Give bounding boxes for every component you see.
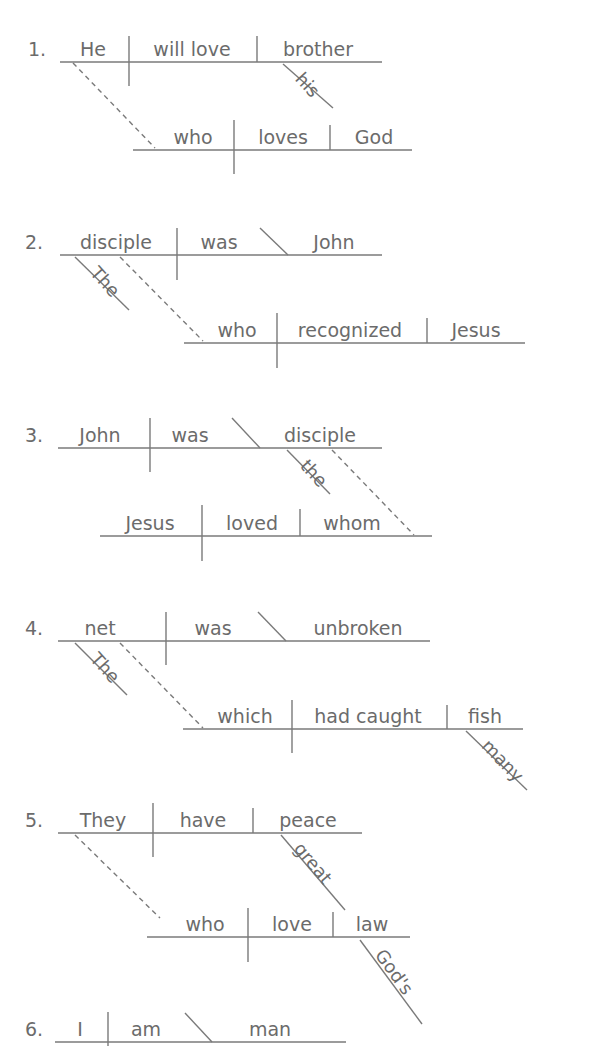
object-word: brother	[283, 38, 353, 60]
clause-object-word: whom	[323, 512, 381, 534]
subject-word: net	[84, 617, 115, 639]
diagram-lines	[0, 0, 592, 1046]
clause-verb-word: loved	[226, 512, 278, 534]
verb-word: will love	[153, 38, 230, 60]
verb-word: was	[171, 424, 208, 446]
item-number: 4.	[25, 617, 43, 639]
verb-word: was	[194, 617, 231, 639]
clause-subject-word: who	[185, 913, 224, 935]
item-number: 3.	[25, 424, 43, 446]
verb-word: was	[200, 231, 237, 253]
clause-verb-word: had caught	[314, 705, 421, 727]
item-number: 2.	[25, 231, 43, 253]
clause-subject-word: Jesus	[125, 512, 174, 534]
clause-subject-word: which	[217, 705, 272, 727]
clause-verb-word: recognized	[298, 319, 402, 341]
subject-word: They	[80, 809, 127, 831]
subject-word: I	[77, 1018, 83, 1040]
subject-word: John	[79, 424, 120, 446]
diagram-4-lines	[58, 612, 527, 790]
item-number: 6.	[25, 1018, 43, 1040]
verb-word: have	[180, 809, 227, 831]
clause-object-word: God	[355, 126, 393, 148]
complement-word: unbroken	[313, 617, 402, 639]
object-word: peace	[279, 809, 337, 831]
clause-subject-word: who	[217, 319, 256, 341]
item-number: 1.	[28, 38, 46, 60]
diagram-6-lines	[55, 1012, 346, 1046]
clause-object-word: fish	[468, 705, 502, 727]
subject-word: disciple	[80, 231, 152, 253]
clause-subject-word: who	[173, 126, 212, 148]
clause-verb-word: loves	[258, 126, 308, 148]
sentence-diagram-worksheet: 1. He will love brother his who loves Go…	[0, 0, 592, 1046]
diagram-1-lines	[60, 36, 412, 174]
clause-object-word: law	[356, 913, 388, 935]
complement-word: disciple	[284, 424, 356, 446]
verb-word: am	[131, 1018, 161, 1040]
complement-word: man	[249, 1018, 291, 1040]
subject-word: He	[80, 38, 106, 60]
clause-object-word: Jesus	[451, 319, 500, 341]
clause-verb-word: love	[272, 913, 312, 935]
item-number: 5.	[25, 809, 43, 831]
complement-word: John	[313, 231, 354, 253]
